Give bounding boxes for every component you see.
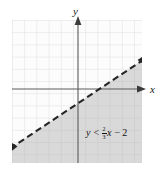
graph-canvas [0, 0, 162, 175]
constant-term: 2 [122, 128, 127, 138]
slope-fraction: 2 3 [102, 126, 107, 141]
inequality-annotation: y < 2 3 x − 2 [86, 126, 127, 141]
inequality-graph-figure: y x y < 2 3 x − 2 [0, 0, 162, 175]
slope-denominator: 3 [103, 134, 106, 140]
inequality-relation: < [91, 128, 101, 138]
y-axis-label: y [73, 6, 78, 17]
slope-numerator: 2 [103, 126, 106, 132]
x-axis-label: x [150, 84, 155, 95]
minus-operator: − [113, 128, 123, 138]
